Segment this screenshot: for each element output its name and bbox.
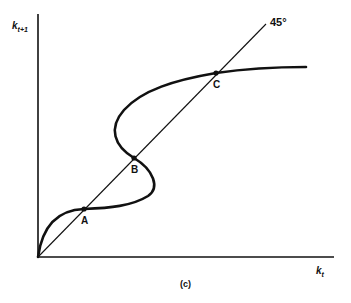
point-c-marker [213,70,218,75]
45-degree-label: 45° [270,16,287,28]
panel-label: (c) [180,279,191,289]
45-degree-line [38,24,266,257]
point-a-label: A [81,215,88,226]
x-axis-label: kt [316,265,324,278]
diagram-canvas [0,0,351,303]
x-axis-subscript: t [322,271,324,278]
point-b-label: B [131,164,138,175]
point-c-label: C [213,79,220,90]
function-curve [38,67,306,257]
y-axis-subscript: t+1 [18,26,28,33]
point-a-marker [81,206,86,211]
y-axis-label: kt+1 [12,20,28,33]
point-b-marker [131,155,136,160]
